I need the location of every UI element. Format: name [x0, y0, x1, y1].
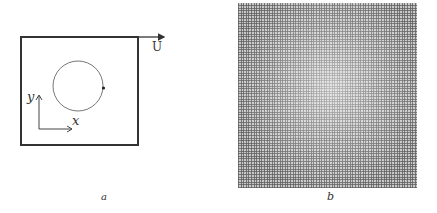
caption-b: b — [327, 191, 334, 202]
grid-mesh-panel — [238, 3, 417, 188]
x-axis-label: x — [72, 114, 79, 127]
caption-a: a — [101, 192, 107, 202]
circular-trajectory — [53, 61, 103, 111]
coordinate-axes — [36, 95, 72, 132]
velocity-label: U — [152, 41, 162, 53]
particle-dot — [102, 86, 105, 89]
y-axis-label: y — [27, 90, 34, 103]
